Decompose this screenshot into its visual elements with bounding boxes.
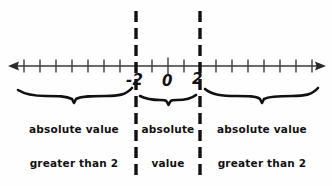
region-label-middle-line-1: absolute xyxy=(139,124,197,135)
region-label-middle-line-2: value xyxy=(139,158,197,169)
region-label-left: absolute value greater than 2 xyxy=(14,101,134,186)
right-arrowhead-icon xyxy=(315,62,326,71)
region-label-middle: absolute value less than 2 xyxy=(139,101,197,186)
axis-label-negative-two: -2 xyxy=(126,72,143,88)
region-label-left-line-1: absolute value xyxy=(14,124,134,135)
axis-label-zero: 0 xyxy=(162,73,173,89)
region-label-right-line-2: greater than 2 xyxy=(202,158,322,169)
region-label-right-line-1: absolute value xyxy=(202,124,322,135)
region-label-right: absolute value greater than 2 xyxy=(202,101,322,186)
region-label-left-line-2: greater than 2 xyxy=(14,158,134,169)
axis-label-positive-two: 2 xyxy=(192,71,203,87)
diagram-canvas: -2 0 2 absolute value greater than 2 abs… xyxy=(0,0,332,186)
left-arrowhead-icon xyxy=(8,62,19,71)
